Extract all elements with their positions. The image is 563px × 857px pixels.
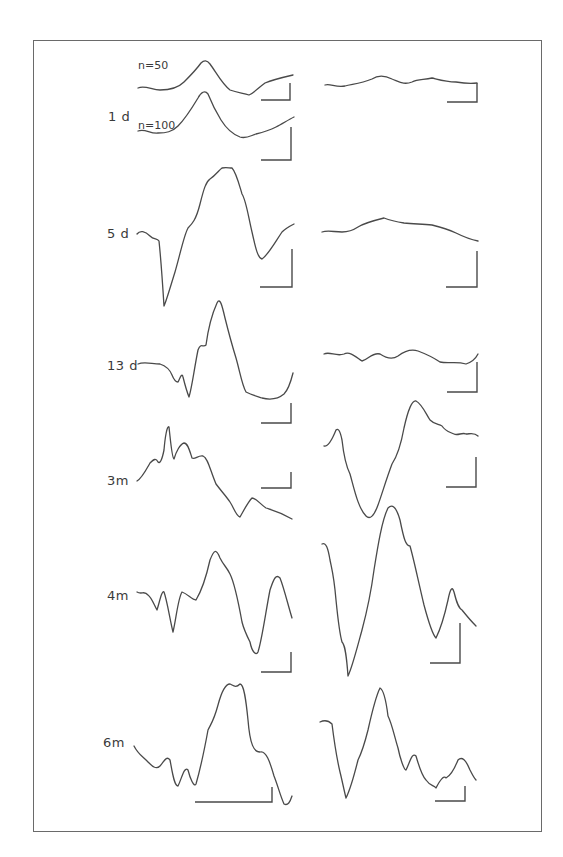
scalebar-1d-n50 (261, 83, 290, 100)
scalebar-5d-right (446, 251, 477, 287)
trace-3m-left (137, 427, 292, 519)
waveform-traces (0, 0, 563, 857)
trace-1d-right (325, 76, 477, 86)
trace-1d-left-n50 (138, 61, 293, 95)
trace-4m-right (322, 506, 476, 676)
trace-13d-left (138, 301, 293, 399)
scalebar-3m-left (261, 472, 291, 488)
trace-4m-left (137, 551, 292, 653)
trace-6m-right (320, 688, 476, 798)
scalebar-13d-right (447, 362, 477, 392)
trace-6m-left (134, 684, 292, 805)
trace-3m-right (324, 401, 478, 518)
scalebar-4m-left (261, 652, 291, 672)
scalebar-4m-right (430, 623, 460, 663)
scalebar-5d-left (260, 249, 292, 287)
figure-panel: 1 d 5 d 13 d 3m 4m 6m n=50 n=100 (0, 0, 563, 857)
scalebar-6m-left (195, 787, 272, 802)
scalebar-1d-n100 (261, 127, 291, 160)
trace-13d-right (324, 350, 478, 364)
trace-5d-left (137, 168, 294, 306)
trace-5d-right (322, 218, 478, 241)
scalebar-1d-right (447, 83, 477, 102)
trace-1d-left-n100 (138, 92, 294, 138)
scalebar-6m-right (435, 786, 465, 801)
scalebar-3m-right (446, 457, 476, 487)
scalebar-13d-left (261, 403, 291, 423)
